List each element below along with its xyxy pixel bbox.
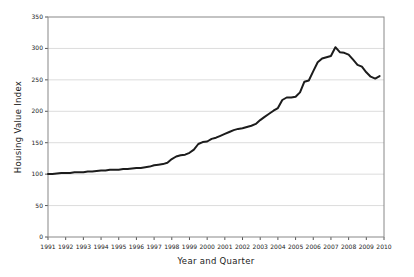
housing-index-line <box>48 47 380 174</box>
chart-canvas: 050100150200250300350 199119921993199419… <box>0 0 414 277</box>
y-tick-label: 200 <box>32 107 44 114</box>
y-tick-label: 350 <box>32 13 44 20</box>
y-tick-label: 250 <box>32 76 44 83</box>
x-tick-label: 1997 <box>146 243 161 250</box>
housing-value-index-chart: 050100150200250300350 199119921993199419… <box>0 0 414 277</box>
x-tick-label: 1993 <box>76 243 91 250</box>
y-tick-label: 150 <box>32 139 44 146</box>
x-tick-label: 1994 <box>93 243 108 250</box>
x-tick-label: 2004 <box>270 243 285 250</box>
x-axis-ticks: 1991199219931994199519961997199819992000… <box>40 237 391 250</box>
x-tick-label: 2007 <box>323 243 338 250</box>
x-axis-title: Year and Quarter <box>176 256 254 266</box>
x-tick-label: 2001 <box>217 243 232 250</box>
gridlines <box>48 48 384 205</box>
y-axis-title: Housing Value Index <box>13 81 23 173</box>
x-tick-label: 2000 <box>200 243 215 250</box>
x-tick-label: 1992 <box>58 243 73 250</box>
x-tick-label: 1991 <box>40 243 55 250</box>
x-tick-label: 2005 <box>288 243 303 250</box>
x-tick-label: 2010 <box>376 243 391 250</box>
x-tick-label: 2003 <box>253 243 268 250</box>
x-tick-label: 1999 <box>182 243 197 250</box>
x-tick-label: 1996 <box>129 243 144 250</box>
x-tick-label: 2009 <box>359 243 374 250</box>
x-tick-label: 2002 <box>235 243 250 250</box>
y-tick-label: 50 <box>35 202 43 209</box>
x-tick-label: 1998 <box>164 243 179 250</box>
x-tick-label: 1995 <box>111 243 126 250</box>
y-axis-ticks: 050100150200250300350 <box>32 13 48 240</box>
y-tick-label: 100 <box>32 170 44 177</box>
y-tick-label: 0 <box>39 233 43 240</box>
x-tick-label: 2008 <box>341 243 356 250</box>
x-tick-label: 2006 <box>306 243 321 250</box>
y-tick-label: 300 <box>32 44 44 51</box>
